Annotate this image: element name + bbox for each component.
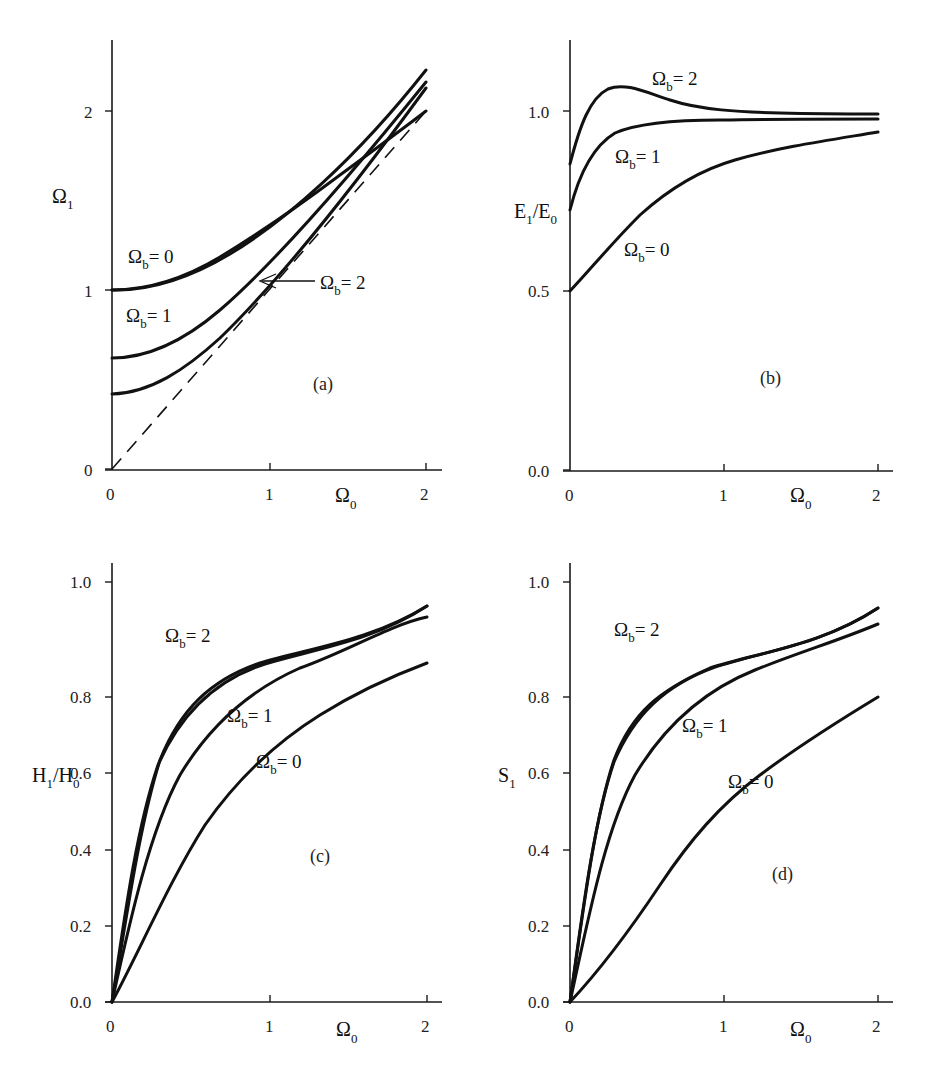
label-omega-b-1: Ωb= 1 — [227, 705, 273, 731]
y-tick-label: 1.0 — [528, 103, 549, 122]
y-axis-label: H1/H0 — [32, 764, 79, 791]
label-omega-b-0: Ωb= 0 — [624, 239, 670, 265]
identity-dashed-line — [112, 111, 426, 469]
y-tick-label: 1.0 — [70, 573, 91, 592]
y-tick-label: 2 — [84, 103, 93, 122]
label-omega-b-2: Ωb= 2 — [165, 625, 211, 651]
y-tick-label: 0.0 — [528, 462, 549, 481]
y-tick-label: 1 — [84, 282, 93, 301]
x-tick-label: 0 — [565, 486, 574, 505]
y-axis-label: E1/E0 — [514, 200, 557, 227]
x-tick-label: 2 — [420, 485, 429, 504]
curve-omega-b-2 — [112, 606, 427, 1002]
y-axis-label: S1 — [498, 764, 516, 791]
figure-canvas: 0 1 2 0 1 2 Ω1 Ω0 Ωb= 0 Ωb= 1 Ωb= 2 (a) … — [0, 0, 925, 1086]
label-omega-b-1: Ωb= 1 — [126, 305, 172, 331]
x-tick-label: 2 — [421, 1017, 430, 1036]
y-tick-label: 0.0 — [528, 993, 549, 1012]
x-axis-label: Ω0 — [790, 484, 811, 512]
curve-omega-b-2 — [112, 606, 427, 1002]
y-tick-label: 0.4 — [70, 841, 92, 860]
panel-a: 0 1 2 0 1 2 Ω1 Ω0 Ωb= 0 Ωb= 1 Ωb= 2 (a) — [52, 40, 442, 512]
panel-label: (b) — [760, 368, 781, 389]
y-tick-label: 0.0 — [70, 993, 91, 1012]
label-omega-b-1: Ωb= 1 — [615, 146, 661, 172]
panel-label: (c) — [310, 846, 330, 867]
x-axis-label: Ω0 — [335, 484, 356, 512]
y-tick-label: 0.5 — [528, 282, 549, 301]
x-tick-label: 2 — [872, 1017, 881, 1036]
y-tick-label: 0.2 — [70, 917, 91, 936]
x-tick-label: 1 — [719, 1017, 728, 1036]
label-omega-b-1: Ωb= 1 — [682, 715, 728, 741]
x-tick-label: 1 — [265, 485, 274, 504]
label-omega-b-2: Ωb= 2 — [320, 272, 366, 298]
x-tick-label: 1 — [719, 486, 728, 505]
x-axis-label: Ω0 — [336, 1018, 357, 1046]
y-tick-label: 1.0 — [528, 573, 549, 592]
panel-d: 0.0 0.2 0.4 0.6 0.8 1.0 0 1 2 S1 Ω0 Ωb= … — [498, 563, 893, 1046]
x-tick-label: 1 — [265, 1017, 274, 1036]
label-omega-b-0: Ωb= 0 — [128, 246, 174, 272]
x-tick-label: 2 — [872, 486, 881, 505]
y-tick-label: 0.6 — [528, 764, 549, 783]
y-tick-label: 0.4 — [528, 841, 550, 860]
x-tick-label: 0 — [106, 485, 115, 504]
y-tick-label: 0.2 — [528, 917, 549, 936]
panel-b: 0.0 0.5 1.0 0 1 2 E1/E0 Ω0 Ωb= 2 Ωb= 1 Ω… — [514, 40, 893, 512]
label-omega-b-0: Ωb= 0 — [728, 771, 774, 797]
curve-omega-b-0 — [570, 697, 878, 1002]
y-tick-label: 0.8 — [70, 688, 91, 707]
x-axis-label: Ω0 — [790, 1018, 811, 1046]
y-tick-label: 0.8 — [528, 688, 549, 707]
curve-omega-b-1 — [112, 617, 427, 1002]
panel-label: (d) — [772, 864, 793, 885]
label-omega-b-0: Ωb= 0 — [256, 751, 302, 777]
panel-c: 0.0 0.2 0.4 0.6 0.8 1.0 0 1 2 H1/H0 Ω0 Ω… — [32, 563, 442, 1046]
y-tick-label: 0 — [84, 461, 93, 480]
x-tick-label: 0 — [565, 1017, 574, 1036]
label-omega-b-2: Ωb= 2 — [652, 68, 698, 94]
y-axis-label: Ω1 — [52, 185, 73, 212]
label-omega-b-2: Ωb= 2 — [614, 619, 660, 645]
x-tick-label: 0 — [106, 1017, 115, 1036]
panel-label: (a) — [313, 374, 333, 395]
